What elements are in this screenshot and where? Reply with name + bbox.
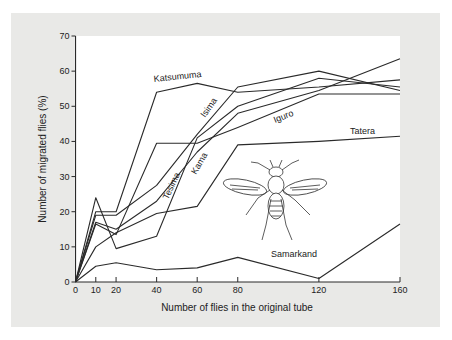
x-tick-label: 60 (192, 285, 202, 295)
label-tatera: Tatera (350, 126, 375, 136)
x-tick-label: 10 (91, 285, 101, 295)
y-tick-label: 40 (59, 136, 69, 146)
x-tick-label: 80 (233, 285, 243, 295)
x-axis-title: Number of flies in the original tube (161, 302, 313, 313)
plot-area (74, 36, 400, 282)
x-tick-label: 0 (73, 285, 78, 295)
x-tick-label: 160 (392, 285, 407, 295)
label-samarkand: Samarkand (271, 249, 317, 259)
y-tick-label: 60 (59, 66, 69, 76)
y-tick-label: 30 (59, 172, 69, 182)
line-chart: 01020304050607001020406080120160 Katsumu… (0, 0, 452, 340)
y-tick-label: 0 (64, 277, 69, 287)
y-axis-title: Number of migrated flies (%) (37, 95, 48, 222)
x-tick-label: 120 (311, 285, 326, 295)
y-tick-label: 50 (59, 101, 69, 111)
y-tick-label: 10 (59, 242, 69, 252)
y-tick-label: 20 (59, 207, 69, 217)
x-tick-label: 40 (152, 285, 162, 295)
y-tick-label: 70 (59, 31, 69, 41)
x-tick-label: 20 (111, 285, 121, 295)
